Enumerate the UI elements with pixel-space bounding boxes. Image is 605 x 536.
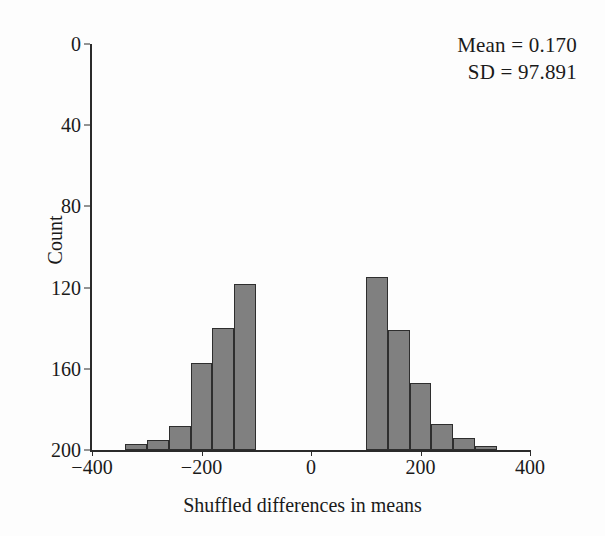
histogram-bar (256, 219, 278, 450)
histogram-bar (322, 135, 344, 450)
plot-area: 04080120160200 −400−2000200400 (90, 44, 530, 452)
histogram-bar (410, 383, 432, 450)
histogram-bar (366, 277, 388, 450)
y-axis-tick-mark (84, 368, 90, 369)
histogram-bar (344, 215, 366, 450)
histogram-bar (212, 328, 234, 450)
histogram-bar (147, 440, 169, 450)
y-axis-tick-mark (84, 44, 90, 45)
y-axis-tick-mark (84, 450, 90, 451)
x-axis-tick-mark (530, 450, 531, 456)
y-axis-tick-mark (84, 125, 90, 126)
histogram-bar (300, 109, 322, 450)
histogram-bar (431, 424, 453, 450)
histogram-figure: Mean = 0.170 SD = 97.891 Count 040801201… (0, 0, 605, 536)
x-axis-tick-label: 200 (406, 456, 436, 479)
x-axis-tick-label: 400 (515, 456, 545, 479)
bars-container (92, 44, 530, 450)
x-axis-tick-label: −400 (71, 456, 112, 479)
x-axis-title: Shuffled differences in means (0, 494, 605, 517)
histogram-bar (453, 438, 475, 450)
x-axis-tick-label: −200 (181, 456, 222, 479)
x-axis-tick-mark (92, 450, 93, 456)
x-axis-tick-label: 0 (306, 456, 316, 479)
histogram-bar (278, 213, 300, 451)
x-axis-tick-mark (421, 450, 422, 456)
y-axis-tick-mark (84, 287, 90, 288)
histogram-bar (388, 330, 410, 450)
x-axis-tick-mark (311, 450, 312, 456)
histogram-bar (169, 426, 191, 450)
histogram-bar (125, 444, 147, 450)
histogram-bar (475, 446, 497, 450)
y-axis-tick-mark (84, 206, 90, 207)
x-axis-tick-mark (202, 450, 203, 456)
x-axis-line (90, 450, 530, 452)
histogram-bar (191, 363, 213, 450)
histogram-bar (234, 284, 256, 450)
